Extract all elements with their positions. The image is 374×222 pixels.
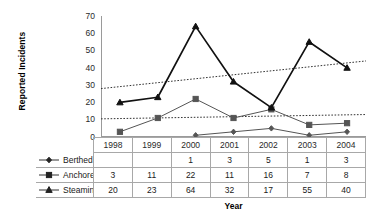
legend-label: Anchored <box>63 170 93 180</box>
marker-square <box>155 115 160 120</box>
cell-anchored-2002: 16 <box>249 168 288 183</box>
table-row: Anchored31122111678 <box>36 168 366 183</box>
data-table: 1998199920002001200220032004Berthed13513… <box>36 137 366 198</box>
legend-entry: Berthed <box>38 155 93 165</box>
marker-square <box>231 115 236 120</box>
cell-steaming-1999: 23 <box>132 183 171 198</box>
marker-square <box>344 121 349 126</box>
y-tick-10: 10 <box>62 115 95 124</box>
marker-triangle <box>192 23 198 29</box>
cell-berthed-1998 <box>93 153 132 168</box>
y-axis-title: Reported Incidents <box>17 6 27 136</box>
y-tick-50: 50 <box>62 46 95 55</box>
cell-anchored-2004: 8 <box>327 168 366 183</box>
marker-diamond <box>231 129 236 134</box>
y-tick-60: 60 <box>62 29 95 38</box>
cell-anchored-2001: 11 <box>210 168 249 183</box>
cell-steaming-2003: 55 <box>288 183 327 198</box>
legend-cell-steaming: Steaming <box>36 183 93 198</box>
legend-label: Steaming <box>63 185 93 195</box>
legend-cell-berthed: Berthed <box>36 153 93 168</box>
legend-entry: Anchored <box>38 170 93 180</box>
cell-steaming-2000: 64 <box>171 183 210 198</box>
marker-diamond <box>345 129 350 134</box>
cell-steaming-2004: 40 <box>327 183 366 198</box>
series-berthed <box>193 126 349 137</box>
cell-berthed-2003: 1 <box>288 153 327 168</box>
table-corner-cell <box>36 138 93 153</box>
table-row: Berthed13513 <box>36 153 366 168</box>
cell-berthed-2002: 5 <box>249 153 288 168</box>
legend-label: Berthed <box>63 155 93 165</box>
marker-square <box>307 122 312 127</box>
year-header-1999: 1999 <box>132 138 171 153</box>
series-line <box>120 26 347 107</box>
y-tick-30: 30 <box>62 81 95 90</box>
cell-anchored-1999: 11 <box>132 168 171 183</box>
legend-marker-square <box>38 170 60 180</box>
legend-marker-triangle <box>38 185 60 195</box>
cell-steaming-1998: 20 <box>93 183 132 198</box>
y-tick-40: 40 <box>62 64 95 73</box>
cell-berthed-2000: 1 <box>171 153 210 168</box>
cell-anchored-2003: 7 <box>288 168 327 183</box>
table-header-row: 1998199920002001200220032004 <box>36 138 366 153</box>
cell-anchored-1998: 3 <box>93 168 132 183</box>
year-header-2001: 2001 <box>210 138 249 153</box>
year-header-1998: 1998 <box>93 138 132 153</box>
legend-entry: Steaming <box>38 185 93 195</box>
cell-anchored-2000: 22 <box>171 168 210 183</box>
cell-berthed-2004: 3 <box>327 153 366 168</box>
chart-figure: Reported Incidents 70 60 50 40 30 20 10 … <box>0 0 374 222</box>
marker-square <box>117 129 122 134</box>
x-axis-title: Year <box>101 201 366 211</box>
legend-marker-diamond <box>38 155 60 165</box>
series-layer <box>117 23 351 137</box>
year-header-2003: 2003 <box>288 138 327 153</box>
marker-diamond <box>269 126 274 131</box>
year-header-2000: 2000 <box>171 138 210 153</box>
y-tick-70: 70 <box>62 12 95 21</box>
cell-berthed-2001: 3 <box>210 153 249 168</box>
legend-cell-anchored: Anchored <box>36 168 93 183</box>
cell-steaming-2002: 17 <box>249 183 288 198</box>
y-tick-20: 20 <box>62 98 95 107</box>
year-header-2004: 2004 <box>327 138 366 153</box>
year-header-2002: 2002 <box>249 138 288 153</box>
plot-area <box>101 16 366 137</box>
cell-berthed-1999 <box>132 153 171 168</box>
marker-triangle <box>306 39 312 45</box>
chart-canvas <box>101 16 366 137</box>
table-row: Steaming20236432175540 <box>36 183 366 198</box>
trendline-layer <box>101 61 366 119</box>
cell-steaming-2001: 32 <box>210 183 249 198</box>
marker-square <box>193 96 198 101</box>
